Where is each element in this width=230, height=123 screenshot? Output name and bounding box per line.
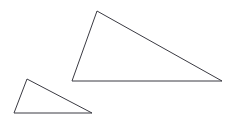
figure-canvas — [0, 0, 230, 123]
small-triangle — [14, 79, 92, 113]
large-triangle — [72, 11, 222, 81]
triangles-diagram — [0, 0, 230, 123]
